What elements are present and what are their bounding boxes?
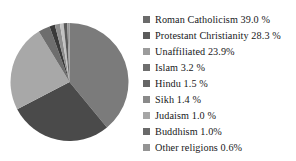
legend-item-label: Protestant Christianity 28.3 % [155,30,281,41]
legend-item-label: Unaffiliated 23.9% [155,46,235,57]
legend-item[interactable]: Hindu 1.5 % [143,75,295,91]
pie-svg [10,15,129,149]
legend-swatch-icon [143,128,150,135]
legend-item-label: Islam 3.2 % [155,62,205,73]
legend-item[interactable]: Buddhism 1.0% [143,123,295,139]
legend-item-label: Other religions 0.6% [155,142,242,153]
legend-item[interactable]: Roman Catholicism 39.0 % [143,11,295,27]
pie-chart-figure: Roman Catholicism 39.0 %Protestant Chris… [0,0,296,161]
pie-slice-group [11,23,129,141]
pie-chart-graphic [10,15,129,149]
legend-item[interactable]: Unaffiliated 23.9% [143,43,295,59]
legend-item[interactable]: Islam 3.2 % [143,59,295,75]
legend-item[interactable]: Judaism 1.0 % [143,107,295,123]
legend-swatch-icon [143,96,150,103]
legend-swatch-icon [143,144,150,151]
legend-swatch-icon [143,80,150,87]
legend-item-label: Sikh 1.4 % [155,94,201,105]
legend-item-label: Buddhism 1.0% [155,126,222,137]
chart-legend: Roman Catholicism 39.0 %Protestant Chris… [143,11,295,155]
legend-swatch-icon [143,48,150,55]
legend-swatch-icon [143,112,150,119]
legend-item-label: Roman Catholicism 39.0 % [155,14,270,25]
legend-swatch-icon [143,64,150,71]
legend-item[interactable]: Sikh 1.4 % [143,91,295,107]
legend-item[interactable]: Protestant Christianity 28.3 % [143,27,295,43]
legend-item-label: Judaism 1.0 % [155,110,216,121]
legend-item[interactable]: Other religions 0.6% [143,139,295,155]
legend-item-label: Hindu 1.5 % [155,78,208,89]
legend-swatch-icon [143,16,150,23]
legend-swatch-icon [143,32,150,39]
